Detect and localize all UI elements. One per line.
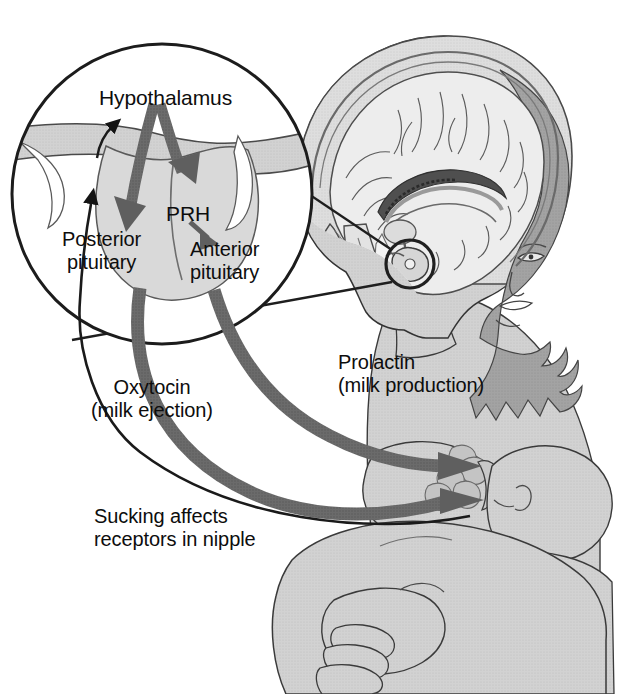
woman-and-infant-illustration bbox=[272, 36, 614, 694]
diagram-canvas bbox=[0, 0, 620, 694]
lactation-reflex-diagram: Hypothalamus PRH Posterior pituitary Ant… bbox=[0, 0, 620, 694]
mother-lips bbox=[500, 301, 532, 309]
magnification-inset bbox=[10, 44, 332, 344]
mother-pupil bbox=[529, 255, 534, 260]
